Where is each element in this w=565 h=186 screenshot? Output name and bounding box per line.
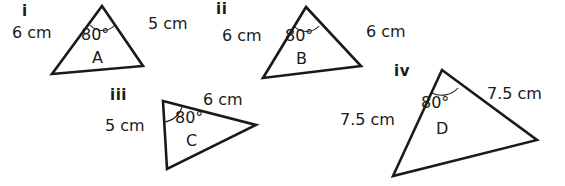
triangle-iii-right-side-label: 6 cm: [203, 92, 243, 108]
triangle-iv-right-side-label: 7.5 cm: [487, 86, 542, 102]
triangle-ii-right-side-label: 6 cm: [366, 24, 406, 40]
triangle-iii-name-label: C: [186, 133, 197, 149]
triangle-ii-numeral: ii: [216, 2, 227, 17]
triangle-ii-name-label: B: [296, 51, 307, 67]
triangle-iv-angle-label: 80°: [421, 95, 449, 111]
triangle-ii-left-side-label: 6 cm: [222, 28, 262, 44]
triangle-i-right-side-label: 5 cm: [148, 16, 188, 32]
triangles-figure: i 6 cm 5 cm 80° A ii 6 cm 6 cm 80° B iii…: [0, 0, 565, 186]
triangle-i-left-side-label: 6 cm: [12, 25, 52, 41]
triangle-iv-numeral: iv: [394, 64, 410, 79]
triangle-ii-angle-label: 80°: [285, 28, 313, 44]
triangle-i-name-label: A: [92, 50, 103, 66]
triangle-iv-left-side-label: 7.5 cm: [340, 112, 395, 128]
triangle-iii-numeral: iii: [110, 88, 127, 103]
triangle-i-angle-label: 80°: [81, 27, 109, 43]
triangle-iv-name-label: D: [436, 121, 448, 137]
triangle-iii-angle-label: 80°: [175, 110, 203, 126]
triangle-iii-left-side-label: 5 cm: [105, 118, 145, 134]
triangle-i-numeral: i: [22, 4, 28, 19]
